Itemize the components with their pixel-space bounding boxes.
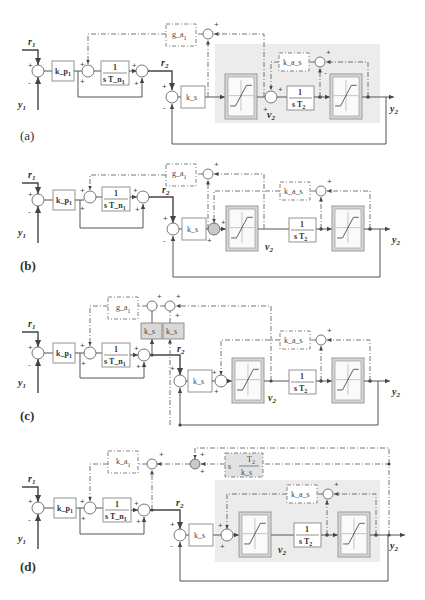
svg-text:+: +: [28, 61, 33, 70]
signal-y1: y1: [17, 99, 26, 112]
svg-text:+: +: [162, 82, 167, 91]
svg-text:y2: y2: [391, 234, 400, 247]
svg-text:+: +: [214, 387, 219, 396]
svg-text:+: +: [214, 160, 219, 169]
svg-text:1: 1: [114, 189, 118, 198]
svg-text:+: +: [220, 542, 225, 551]
svg-text:+: +: [212, 368, 217, 377]
svg-text:-: -: [28, 515, 31, 524]
svg-text:k_a_s: k_a_s: [284, 336, 303, 345]
svg-text:+: +: [159, 450, 164, 459]
summing-junction-3: [136, 65, 148, 77]
panel-label-b: (b): [20, 258, 36, 273]
svg-text:1: 1: [300, 220, 304, 229]
svg-text:+: +: [221, 218, 226, 227]
panel-label-a: (a): [20, 128, 34, 143]
svg-text:s T_n1: s T_n1: [104, 201, 126, 211]
svg-text:+: +: [176, 292, 181, 301]
svg-text:s: s: [228, 462, 231, 471]
svg-text:+: +: [80, 77, 85, 86]
svg-text:+: +: [81, 359, 86, 368]
panel-b: r1 y1 + - k_p1 + + 1 s T_n1 + + r2 + - k…: [17, 160, 400, 277]
svg-text:1: 1: [298, 88, 302, 97]
svg-text:r2: r2: [176, 497, 184, 510]
svg-text:+: +: [28, 343, 33, 352]
svg-text:+: +: [136, 362, 141, 371]
svg-text:k_s: k_s: [241, 468, 252, 477]
control-block-diagram-figure: r1 y1 + - k_p1 + + 1 s T_n1 + + r2 + - k…: [0, 0, 425, 600]
svg-text:+: +: [134, 79, 139, 88]
svg-text:+: +: [326, 48, 331, 57]
svg-text:1: 1: [113, 63, 117, 72]
svg-text:k_s: k_s: [144, 327, 155, 336]
signal-r1: r1: [28, 36, 35, 49]
svg-text:+: +: [134, 499, 139, 508]
svg-text:-: -: [28, 78, 31, 87]
svg-text:+: +: [170, 520, 175, 529]
svg-text:+: +: [80, 341, 85, 350]
svg-text:-: -: [324, 68, 327, 77]
panel-c: r1 y1 + - k_p1 + + 1 s T_n1 + + r2 + k_s…: [17, 292, 400, 427]
svg-text:v2: v2: [265, 241, 273, 254]
svg-text:+: +: [135, 205, 140, 214]
summing-junction-grey: [208, 223, 220, 235]
svg-text:1: 1: [305, 525, 309, 534]
svg-text:+: +: [134, 344, 139, 353]
svg-text:-: -: [163, 103, 166, 112]
svg-text:s T_n1: s T_n1: [105, 512, 127, 522]
svg-text:+: +: [218, 521, 223, 530]
svg-text:y1: y1: [17, 227, 26, 240]
svg-text:+: +: [175, 311, 180, 320]
svg-text:-: -: [163, 236, 166, 245]
panel-label-c: (c): [20, 408, 34, 423]
svg-text:k_s: k_s: [193, 377, 204, 386]
svg-text:1: 1: [114, 345, 118, 354]
svg-text:r1: r1: [28, 318, 35, 331]
svg-text:+: +: [132, 61, 137, 70]
svg-text:k_s: k_s: [166, 327, 177, 336]
svg-text:+: +: [28, 190, 33, 199]
signal-r2: r2: [161, 57, 169, 70]
panel-d: r1 y1 + - k_p1 + + 1 s T_n1 + + r2 + - k…: [17, 448, 405, 581]
svg-text:+: +: [28, 497, 33, 506]
svg-text:+: +: [80, 204, 85, 213]
svg-text:k_a_s: k_a_s: [283, 58, 302, 67]
summing-junction-ga: [203, 29, 213, 39]
svg-text:r1: r1: [28, 473, 35, 486]
svg-text:+: +: [136, 517, 141, 526]
svg-text:r1: r1: [28, 169, 35, 182]
svg-text:s T_n1: s T_n1: [104, 357, 126, 367]
svg-text:+: +: [157, 292, 162, 301]
summing-junction-1: [32, 65, 44, 77]
summing-junction-5: [265, 91, 277, 103]
svg-text:+: +: [170, 364, 175, 373]
panel-a: r1 y1 + - k_p1 + + 1 s T_n1 + + r2 + - k…: [17, 20, 398, 144]
svg-text:+: +: [81, 514, 86, 523]
svg-text:+: +: [200, 467, 205, 476]
svg-text:k_s: k_s: [187, 225, 198, 234]
svg-text:+: +: [327, 326, 332, 335]
svg-text:+: +: [80, 60, 85, 69]
summing-junction-kas: [315, 57, 325, 67]
svg-text:+: +: [80, 186, 85, 195]
svg-text:+: +: [133, 186, 138, 195]
svg-text:-: -: [170, 541, 173, 550]
svg-text:+: +: [327, 177, 332, 186]
signal-y2: y2: [389, 103, 398, 116]
svg-text:+: +: [80, 497, 85, 506]
svg-text:-: -: [28, 207, 31, 216]
svg-text:+: +: [334, 480, 339, 489]
panel-label-d: (d): [20, 559, 36, 574]
svg-text:y1: y1: [17, 533, 26, 546]
svg-text:+: +: [163, 214, 168, 223]
svg-text:y1: y1: [17, 377, 26, 390]
svg-text:+: +: [200, 450, 205, 459]
svg-text:v2: v2: [268, 392, 276, 405]
svg-text:+: +: [278, 85, 283, 94]
summing-junction-4: [166, 91, 178, 103]
svg-text:+: +: [207, 236, 212, 245]
svg-text:y2: y2: [391, 386, 400, 399]
svg-text:+: +: [214, 20, 219, 29]
svg-text:k_s: k_s: [194, 531, 205, 540]
svg-text:1: 1: [300, 372, 304, 381]
